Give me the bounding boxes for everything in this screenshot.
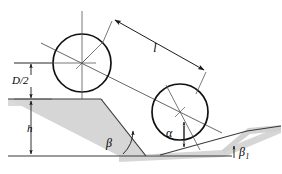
beta1-label: β1 — [238, 145, 249, 161]
figure-canvas: l D/2 h α β — [0, 0, 282, 174]
length-dimension-group: l — [115, 20, 204, 70]
length-dimension-line — [115, 20, 204, 70]
beta-label: β — [105, 136, 112, 150]
terrain-bench-shadow — [8, 99, 103, 106]
lower-circle-group — [152, 72, 208, 150]
alpha-label: α — [166, 126, 173, 140]
lower-circle-extension-to-dim — [196, 72, 206, 94]
upper-circle-radius-leader — [82, 42, 103, 63]
upper-circle-extension-to-dim — [103, 21, 112, 42]
height-label: h — [27, 122, 33, 134]
diameter-half-label: D/2 — [11, 74, 29, 86]
beta1-glyph: β — [238, 145, 245, 159]
diameter-half-dimension-group: D/2 — [11, 63, 52, 99]
alpha-angle-group: α — [166, 122, 184, 147]
engineering-figure: l D/2 h α β — [0, 0, 282, 174]
upper-circle-group — [14, 11, 112, 99]
beta1-subscript: 1 — [245, 152, 249, 161]
